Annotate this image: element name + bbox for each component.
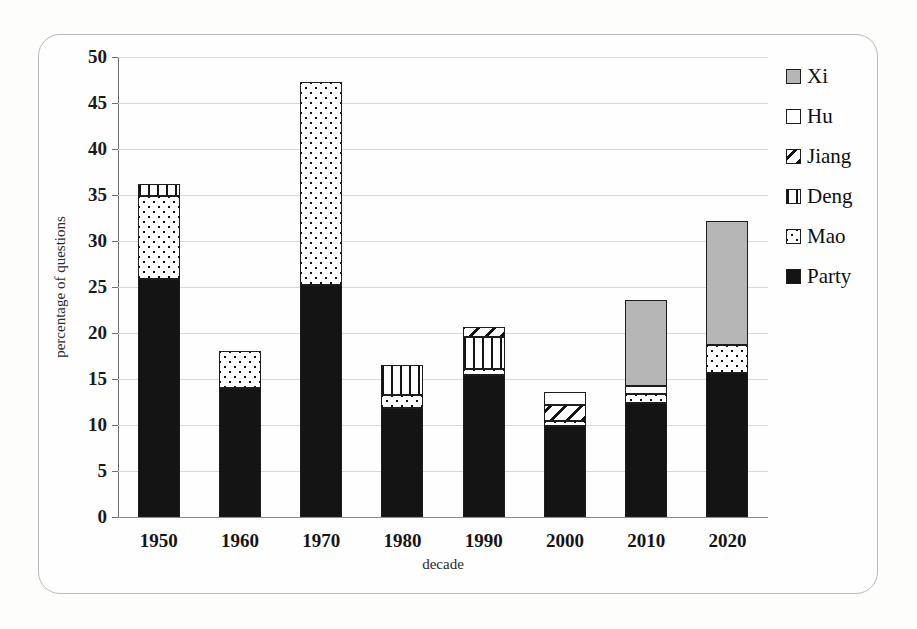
y-tick-mark [112, 517, 118, 518]
y-tick-label: 10 [88, 414, 107, 436]
gridline [118, 57, 768, 58]
y-tick-label: 0 [98, 506, 108, 528]
y-tick-label: 25 [88, 276, 107, 298]
x-tick-label: 2000 [546, 530, 584, 552]
y-tick-label: 45 [88, 92, 107, 114]
gridline [118, 471, 768, 472]
y-tick-label: 5 [98, 460, 108, 482]
bar-group[interactable]: 1990 [463, 57, 505, 517]
y-tick-mark [112, 103, 118, 104]
legend-swatch-deng-icon [786, 189, 801, 204]
x-tick-label: 1980 [383, 530, 421, 552]
bar-segment-deng[interactable] [381, 365, 423, 394]
y-tick-label: 50 [88, 46, 107, 68]
bar-segment-mao[interactable] [706, 345, 748, 374]
chart-page: 05101520253035404550 1950196019701980199… [0, 0, 917, 629]
legend-item-deng[interactable]: Deng [786, 176, 896, 216]
stacked-bar[interactable] [138, 57, 180, 517]
bar-segment-party[interactable] [219, 388, 261, 517]
y-tick-mark [112, 149, 118, 150]
gridline [118, 103, 768, 104]
gridline [118, 149, 768, 150]
y-tick-label: 35 [88, 184, 107, 206]
stacked-bar[interactable] [463, 57, 505, 517]
y-axis-label: percentage of questions [52, 57, 74, 517]
y-tick-mark [112, 287, 118, 288]
bar-segment-jiang[interactable] [544, 405, 586, 422]
bar-group[interactable]: 1950 [138, 57, 180, 517]
legend-swatch-hu-icon [786, 109, 801, 124]
legend-label: Jiang [807, 146, 851, 167]
legend-label: Hu [807, 106, 833, 127]
legend-swatch-party-icon [786, 269, 801, 284]
gridline [118, 379, 768, 380]
bar-group[interactable]: 2000 [544, 57, 586, 517]
bar-segment-mao[interactable] [463, 369, 505, 375]
y-tick-label: 40 [88, 138, 107, 160]
legend-item-jiang[interactable]: Jiang [786, 136, 896, 176]
bar-segment-xi[interactable] [706, 221, 748, 345]
legend-item-mao[interactable]: Mao [786, 216, 896, 256]
bar-segment-deng[interactable] [138, 184, 180, 196]
bar-segment-mao[interactable] [138, 196, 180, 279]
legend-item-party[interactable]: Party [786, 256, 896, 296]
bar-segment-mao[interactable] [544, 421, 586, 426]
stacked-bar[interactable] [706, 57, 748, 517]
bar-segment-party[interactable] [463, 375, 505, 517]
bar-segment-party[interactable] [300, 285, 342, 517]
y-tick-label: 30 [88, 230, 107, 252]
y-tick-mark [112, 195, 118, 196]
bar-segment-party[interactable] [544, 426, 586, 517]
legend-label: Mao [807, 226, 846, 247]
y-tick-mark [112, 379, 118, 380]
legend-item-hu[interactable]: Hu [786, 96, 896, 136]
bar-segment-mao[interactable] [625, 394, 667, 403]
x-tick-label: 1970 [302, 530, 340, 552]
bar-segment-party[interactable] [706, 373, 748, 517]
stacked-bar[interactable] [219, 57, 261, 517]
bar-segment-jiang[interactable] [463, 327, 505, 336]
legend-item-xi[interactable]: Xi [786, 56, 896, 96]
gridline [118, 517, 768, 518]
stacked-bar[interactable] [300, 57, 342, 517]
bar-group[interactable]: 2010 [625, 57, 667, 517]
legend-swatch-mao-icon [786, 229, 801, 244]
bar-segment-mao[interactable] [300, 82, 342, 285]
bar-segment-hu[interactable] [544, 392, 586, 405]
x-tick-label: 1990 [465, 530, 503, 552]
y-tick-mark [112, 57, 118, 58]
stacked-bar[interactable] [625, 57, 667, 517]
bar-group[interactable]: 1960 [219, 57, 261, 517]
bar-segment-hu[interactable] [625, 386, 667, 393]
y-tick-mark [112, 425, 118, 426]
y-tick-label: 20 [88, 322, 107, 344]
legend-label: Party [807, 266, 851, 287]
legend-label: Deng [807, 186, 853, 207]
bar-segment-party[interactable] [138, 279, 180, 517]
gridline [118, 425, 768, 426]
bar-group[interactable]: 1970 [300, 57, 342, 517]
legend-swatch-xi-icon [786, 69, 801, 84]
x-tick-label: 2010 [627, 530, 665, 552]
bar-segment-xi[interactable] [625, 300, 667, 386]
y-tick-mark [112, 241, 118, 242]
bar-segment-mao[interactable] [219, 351, 261, 388]
x-tick-label: 1950 [140, 530, 178, 552]
x-tick-label: 1960 [221, 530, 259, 552]
y-tick-mark [112, 333, 118, 334]
stacked-bar[interactable] [381, 57, 423, 517]
y-tick-label: 15 [88, 368, 107, 390]
legend-swatch-jiang-icon [786, 149, 801, 164]
stacked-bar[interactable] [544, 57, 586, 517]
plot-area: 05101520253035404550 1950196019701980199… [118, 57, 768, 517]
bar-segment-deng[interactable] [463, 337, 505, 369]
x-tick-label: 2020 [708, 530, 746, 552]
gridline [118, 195, 768, 196]
bar-segment-party[interactable] [381, 408, 423, 517]
bar-group[interactable]: 2020 [706, 57, 748, 517]
bar-segment-mao[interactable] [381, 395, 423, 409]
x-axis-label: decade [118, 556, 768, 573]
gridline [118, 333, 768, 334]
bar-group[interactable]: 1980 [381, 57, 423, 517]
bar-segment-party[interactable] [625, 403, 667, 517]
